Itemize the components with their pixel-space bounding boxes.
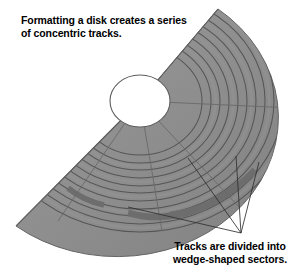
- disk-platter-diagram: [0, 0, 295, 272]
- tracks-annotation-line2: of concentric tracks.: [21, 27, 187, 40]
- figure-canvas: Formatting a disk creates a series of co…: [0, 0, 295, 272]
- tracks-annotation: Formatting a disk creates a series of co…: [21, 14, 187, 39]
- sectors-annotation-line1: Tracks are divided into: [173, 240, 287, 253]
- tracks-annotation-line1: Formatting a disk creates a series: [21, 14, 187, 27]
- hub-hole: [110, 75, 170, 127]
- sectors-annotation: Tracks are divided into wedge-shaped sec…: [173, 240, 287, 265]
- sectors-annotation-line2: wedge-shaped sectors.: [173, 253, 287, 266]
